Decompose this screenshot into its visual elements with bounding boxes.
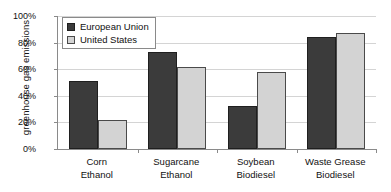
bar-us-0 <box>98 120 127 149</box>
x-tick-mark <box>297 149 298 153</box>
legend-swatch-icon-eu <box>67 23 75 31</box>
x-category-label-line1: Sugarcane <box>153 156 199 167</box>
y-tick-label: 80% <box>0 38 36 48</box>
bar-eu-1 <box>148 52 177 149</box>
legend-item-united-states: United States <box>67 34 149 45</box>
x-category-label: SoybeanBiodiesel <box>216 156 296 181</box>
x-category-label-line2: Biodiesel <box>216 169 296 182</box>
x-category-label-line1: Corn <box>86 156 107 167</box>
y-tick-label: 20% <box>0 117 36 127</box>
x-category-label-line2: Biodiesel <box>296 169 376 182</box>
y-tick-label: 40% <box>0 91 36 101</box>
x-category-label-line2: Ethanol <box>57 169 137 182</box>
x-tick-mark <box>138 149 139 153</box>
bar-us-2 <box>257 72 286 149</box>
legend-swatch-icon-us <box>67 36 75 44</box>
y-tick-label: 100% <box>0 11 36 21</box>
x-category-label: CornEthanol <box>57 156 137 181</box>
legend-item-european-union: European Union <box>67 21 149 32</box>
legend-label-us: United States <box>80 34 137 45</box>
y-tick-mark <box>54 149 58 150</box>
x-tick-mark <box>217 149 218 153</box>
bar-us-1 <box>177 67 206 149</box>
y-tick-label: 0% <box>0 144 36 154</box>
bar-us-3 <box>336 33 365 149</box>
bar-eu-3 <box>307 37 336 149</box>
x-category-label-line2: Ethanol <box>137 169 217 182</box>
bar-eu-2 <box>228 106 257 149</box>
x-category-label-line1: Soybean <box>237 156 275 167</box>
x-category-label-line1: Waste Grease <box>305 156 365 167</box>
legend-label-eu: European Union <box>80 21 149 32</box>
bar-eu-0 <box>69 81 98 149</box>
x-category-label: SugarcaneEthanol <box>137 156 217 181</box>
y-tick-label: 60% <box>0 64 36 74</box>
y-axis-title: greenhouse gas emissions <box>20 3 31 153</box>
x-tick-mark <box>376 149 377 153</box>
bar-chart-figure: greenhouse gas emissions 0%20%40%60%80%1… <box>0 0 391 192</box>
chart-legend: European Union United States <box>62 17 156 49</box>
x-category-label: Waste GreaseBiodiesel <box>296 156 376 181</box>
